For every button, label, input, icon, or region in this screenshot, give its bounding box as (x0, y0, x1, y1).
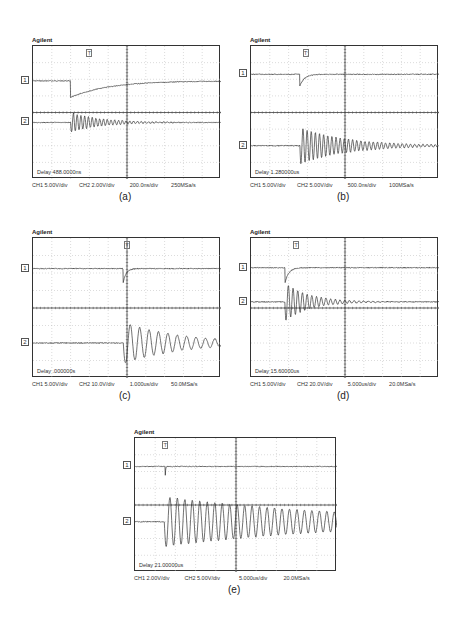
timebase: 1.000us/div (130, 381, 158, 387)
ch2-marker-icon: 2 (239, 297, 247, 305)
ch1-marker-icon: 1 (21, 76, 29, 84)
sample-rate: 20.0MSa/s (389, 381, 415, 387)
ch1-scale: CH1 5.00V/div (32, 182, 67, 188)
ch2-scale: CH2 5.00V/div (297, 182, 332, 188)
brand-label: Agilent (250, 229, 270, 235)
panel-caption: (a) (119, 191, 131, 202)
scope-screen-c: TDelay .000000s (32, 237, 220, 377)
ch2-scale: CH2 5.00V/div (185, 575, 220, 581)
trigger-position-icon: T (86, 49, 92, 57)
delay-readout: Delay 1.280000us (255, 169, 299, 175)
scope-screen-b: TDelay 1.280000us (250, 45, 438, 178)
panel-caption: (d) (337, 390, 349, 401)
ch1-scale: CH1 2.00V/div (134, 575, 169, 581)
brand-label: Agilent (32, 37, 52, 43)
ch1-marker-icon: 1 (239, 263, 247, 271)
panel-caption: (b) (337, 191, 349, 202)
sample-rate: 250MSa/s (171, 182, 196, 188)
brand-label: Agilent (250, 37, 270, 43)
ch1-marker-icon: 1 (21, 264, 29, 272)
delay-readout: Delay 488.0000ns (37, 169, 81, 175)
timebase: 5.000us/div (239, 575, 267, 581)
scope-plot (33, 238, 221, 378)
scope-screen-d: TDelay 15.60000us (250, 237, 438, 377)
scope-plot (251, 238, 439, 378)
ch2-marker-icon: 2 (239, 141, 247, 149)
brand-label: Agilent (32, 229, 52, 235)
timebase: 5.000us/div (348, 381, 376, 387)
sample-rate: 50.0MSa/s (171, 381, 197, 387)
ch1-marker-icon: 1 (123, 461, 131, 469)
trigger-position-icon: T (303, 49, 309, 57)
ch2-marker-icon: 2 (21, 117, 29, 125)
ch2-marker-icon: 2 (21, 338, 29, 346)
trigger-position-icon: T (293, 241, 299, 249)
trigger-position-icon: T (162, 441, 168, 449)
ch1-marker-icon: 1 (239, 69, 247, 77)
brand-label: Agilent (134, 429, 154, 435)
panel-caption: (e) (228, 584, 240, 595)
scope-plot (251, 46, 439, 179)
trigger-position-icon: T (124, 241, 130, 249)
ch2-scale: CH2 2.00V/div (79, 182, 114, 188)
timebase: 500.0ns/div (348, 182, 376, 188)
ch2-marker-icon: 2 (123, 517, 131, 525)
sample-rate: 100MSa/s (389, 182, 414, 188)
sample-rate: 20.0MSa/s (283, 575, 309, 581)
ch1-scale: CH1 5.00V/div (250, 182, 285, 188)
delay-readout: Delay 15.60000us (255, 368, 299, 374)
ch1-scale: CH1 5.00V/div (250, 381, 285, 387)
scope-plot (33, 46, 221, 179)
delay-readout: Delay .000000s (37, 368, 75, 374)
timebase: 200.0ns/div (130, 182, 158, 188)
ch2-scale: CH2 10.0V/div (79, 381, 114, 387)
scope-plot (135, 438, 337, 572)
scope-screen-a: TDelay 488.0000ns (32, 45, 220, 178)
ch1-scale: CH1 5.00V/div (32, 381, 67, 387)
panel-caption: (c) (119, 390, 131, 401)
delay-readout: Delay 21.00000us (139, 562, 183, 568)
ch2-scale: CH2 20.0V/div (297, 381, 332, 387)
scope-screen-e: TDelay 21.00000us (134, 437, 336, 571)
